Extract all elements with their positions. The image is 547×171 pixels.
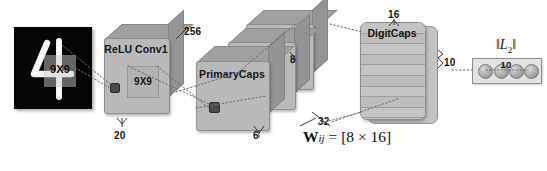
pcaps-side-face xyxy=(268,31,285,114)
layer-digitcaps: DigitCaps xyxy=(360,22,432,122)
digitcaps-row xyxy=(361,55,425,66)
l2-norm-label: ‖L2‖ xyxy=(472,37,540,55)
tick-primarycaps-depth xyxy=(300,118,316,126)
weight-symbol: W xyxy=(303,128,319,145)
digitcaps-top-label: 16 xyxy=(388,9,400,20)
digitcaps-row xyxy=(361,118,425,120)
primarycaps-width-label: 6 xyxy=(253,130,259,141)
layer-primarycaps: PrimaryCaps xyxy=(196,46,300,132)
primarycaps-pixel-marker xyxy=(209,102,220,113)
conv1-kernel-label: 9X9 xyxy=(128,76,158,87)
digitcaps-row xyxy=(361,108,425,119)
tick-digitcaps-side xyxy=(438,50,443,58)
capsnet-architecture-diagram: 9X9 ReLU Conv1 9X9 20 256 PrimaryCaps 6 … xyxy=(0,0,547,171)
conv1-pixel-marker xyxy=(110,83,120,93)
layer-conv1: ReLU Conv1 9X9 xyxy=(104,24,190,116)
weight-shape: [8 × 16] xyxy=(341,128,391,145)
digitcaps-side-label: 10 xyxy=(444,57,456,68)
tick-conv1-width-arrow xyxy=(117,118,127,124)
digitcaps-row xyxy=(361,44,425,55)
mnist-input-image: 9X9 xyxy=(14,27,92,109)
conv1-depth-label: 256 xyxy=(184,26,201,37)
tick-digitcaps-side2 xyxy=(438,58,443,68)
weight-matrix-formula: Wij = [8 × 16] xyxy=(303,128,391,146)
conv1-side-face xyxy=(168,10,184,98)
weight-subscript: ij xyxy=(319,132,325,144)
digitcaps-row xyxy=(361,76,425,87)
weight-equals: = xyxy=(329,128,338,145)
input-patch-label: 9X9 xyxy=(44,63,76,75)
conv1-kernel-region: 9X9 xyxy=(127,66,159,98)
primarycaps-capsule-dim-label: 8 xyxy=(290,54,296,65)
digitcaps-row xyxy=(361,97,425,108)
primarycaps-label: PrimaryCaps xyxy=(196,68,268,80)
digitcaps-label: DigitCaps xyxy=(360,27,424,39)
primarycaps-depth-label: 32 xyxy=(318,116,330,127)
conv1-width-label: 20 xyxy=(114,130,126,141)
l2-norm-text: ‖L2‖ xyxy=(496,37,516,52)
digitcaps-row xyxy=(361,65,425,76)
conv1-label: ReLU Conv1 xyxy=(104,43,168,55)
output-count-label: 10 xyxy=(472,59,540,70)
digitcaps-row xyxy=(361,87,425,98)
